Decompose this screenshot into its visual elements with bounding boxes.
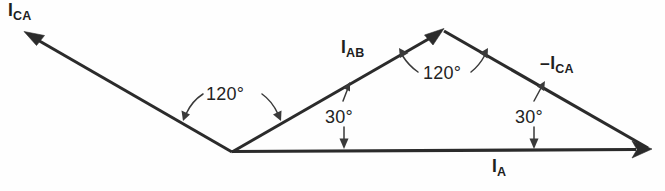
label-vector-iab: IAB <box>341 39 364 57</box>
label-vector-ia: IA <box>492 158 506 176</box>
label-vector-iab-sub: AB <box>346 46 364 60</box>
label-angle-left-120: 120° <box>206 85 244 103</box>
phasor-diagram-canvas <box>0 0 665 191</box>
label-vector-minus-ica-sub: CA <box>555 62 573 76</box>
phasor-diagram: ICA IAB –ICA IA 120° 120° 30° 30° <box>0 0 665 191</box>
label-angle-apex-120: 120° <box>423 64 461 82</box>
leader-angle-right-30-down <box>530 127 539 149</box>
vector-ica <box>24 32 232 153</box>
leader-angle-left-30-down <box>340 127 349 149</box>
label-vector-ica-sub: CA <box>13 9 31 23</box>
leader-angle-left-120-b <box>262 94 282 121</box>
vector-iab-arrowhead <box>425 29 445 46</box>
label-vector-minus-ica: –ICA <box>540 55 574 73</box>
leader-angle-left-30-down-head <box>340 139 349 150</box>
label-vector-minus-ica-prefix: – <box>540 53 550 73</box>
vector-iab <box>232 29 444 153</box>
leader-angle-right-30-down-head <box>530 139 539 150</box>
label-angle-right-30: 30° <box>515 108 543 126</box>
leader-angle-left-120-a-head <box>182 111 191 122</box>
vector-ica-shaft <box>36 39 232 152</box>
vector-ia-shaft <box>232 150 636 152</box>
label-angle-left-30: 30° <box>325 108 353 126</box>
vector-minus-ica-shaft <box>444 31 648 148</box>
vector-ia <box>232 141 652 158</box>
label-vector-ica: ICA <box>8 2 31 20</box>
leader-angle-left-120-a <box>182 94 204 121</box>
label-vector-ia-sub: A <box>497 165 506 179</box>
vector-minus-ica <box>444 31 648 148</box>
